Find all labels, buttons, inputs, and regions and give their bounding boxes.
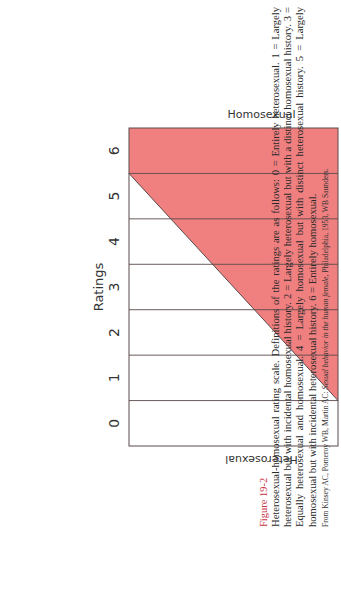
tick-label-1: 1 bbox=[106, 373, 122, 382]
tick-label-6: 6 bbox=[106, 146, 122, 155]
tick-label-5: 5 bbox=[106, 192, 122, 201]
source-title: Sexual behavior in the human female, bbox=[321, 275, 330, 390]
tick-label-0: 0 bbox=[106, 419, 122, 428]
figure-page: 0123456RatingsHeterosexualHomosexual Fig… bbox=[0, 0, 341, 595]
x-axis-label: Ratings bbox=[91, 262, 106, 311]
figure-caption: Heterosexual-homosexual rating scale. De… bbox=[270, 7, 319, 527]
figure-label: Figure 19-2 bbox=[258, 478, 269, 527]
tick-label-2: 2 bbox=[106, 328, 122, 337]
tick-label-3: 3 bbox=[106, 283, 122, 292]
figure-source: From Kinsey AC, Pomeroy WB, Martin AC: S… bbox=[321, 7, 330, 527]
source-publisher: Philadelphia, 1953, WB Saunders. bbox=[321, 168, 330, 274]
source-authors: From Kinsey AC, Pomeroy WB, Martin AC: bbox=[321, 389, 330, 527]
tick-label-4: 4 bbox=[106, 237, 122, 246]
